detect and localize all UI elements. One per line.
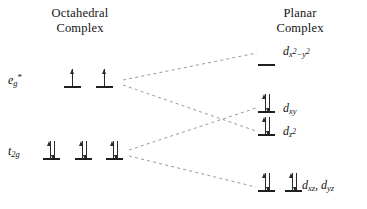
orbital-label-dxz-dyz: dxz, dyz bbox=[302, 178, 334, 193]
planar-complex-title: Planar Complex bbox=[252, 6, 348, 35]
orbital-dxz bbox=[258, 170, 275, 192]
electron-arrow-up bbox=[292, 173, 293, 191]
electron-arrow-down bbox=[296, 173, 297, 191]
octahedral-complex-title: Octahedral Complex bbox=[28, 6, 132, 35]
orbital-level-line bbox=[75, 158, 92, 160]
electron-arrow-up bbox=[82, 141, 83, 159]
orbital-label-dx2-y2: dx2−y2 bbox=[283, 44, 310, 59]
orbital-level-line bbox=[64, 86, 81, 88]
orbital-level-line bbox=[258, 111, 275, 113]
orbital-level-line bbox=[106, 158, 123, 160]
orbital-label-dxy: dxy bbox=[283, 101, 297, 116]
orbital-t2g-3 bbox=[106, 138, 123, 160]
orbital-dyz bbox=[285, 170, 302, 192]
electron-arrow-up bbox=[50, 141, 51, 159]
orbital-level-line bbox=[258, 64, 275, 66]
orbital-level-line bbox=[43, 158, 60, 160]
electron-arrow-down bbox=[117, 141, 118, 159]
orbital-t2g-1 bbox=[43, 138, 60, 160]
orbital-level-line bbox=[285, 190, 302, 192]
electron-arrow-down bbox=[269, 117, 270, 135]
electron-arrow-up bbox=[265, 94, 266, 112]
term-label-t2g: t2g bbox=[8, 144, 20, 159]
electron-arrow-down bbox=[54, 141, 55, 159]
orbital-label-dz2: dz2 bbox=[283, 124, 296, 139]
orbital-level-line bbox=[96, 86, 113, 88]
orbital-level-line bbox=[258, 190, 275, 192]
electron-arrow-up bbox=[265, 117, 266, 135]
orbital-dz2 bbox=[258, 114, 275, 136]
electron-arrow-up bbox=[265, 173, 266, 191]
correlation-line-eg-to-dx2y2 bbox=[123, 53, 257, 80]
orbital-eg-1 bbox=[64, 66, 81, 88]
correlation-line-t2g-to-dxzyz bbox=[129, 156, 256, 187]
electron-arrow-up bbox=[104, 69, 105, 87]
correlation-line-eg-to-dz2 bbox=[123, 85, 256, 131]
electron-arrow-down bbox=[86, 141, 87, 159]
orbital-eg-2 bbox=[96, 66, 113, 88]
electron-arrow-down bbox=[269, 173, 270, 191]
correlation-line-t2g-to-dxy bbox=[129, 108, 256, 150]
orbital-level-line bbox=[258, 134, 275, 136]
electron-arrow-up bbox=[72, 69, 73, 87]
orbital-splitting-diagram: Octahedral Complex Planar Complex eg* t2… bbox=[0, 0, 367, 209]
orbital-dxy bbox=[258, 91, 275, 113]
term-label-eg-star: eg* bbox=[8, 72, 22, 88]
orbital-t2g-2 bbox=[75, 138, 92, 160]
electron-arrow-down bbox=[269, 94, 270, 112]
electron-arrow-up bbox=[113, 141, 114, 159]
orbital-dx2-y2 bbox=[258, 44, 275, 66]
